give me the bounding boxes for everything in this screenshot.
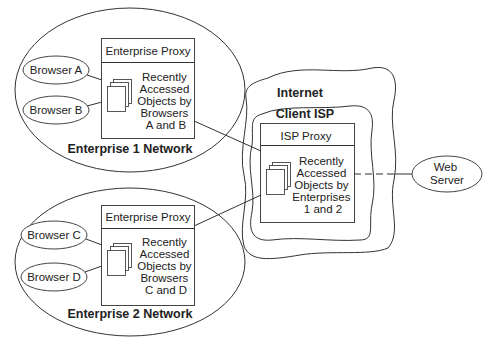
isp-proxy-title: ISP Proxy bbox=[281, 130, 332, 142]
link-browser-a-proxy bbox=[87, 75, 102, 80]
enterprise-1-proxy-title: Enterprise Proxy bbox=[105, 45, 190, 57]
link-enterprise-1-to-isp bbox=[194, 121, 261, 151]
enterprise-2-network: Enterprise 2 Network Browser C Browser D… bbox=[15, 188, 245, 336]
web-server-label: Web Server bbox=[430, 161, 464, 186]
browser-c-label: Browser C bbox=[27, 229, 81, 241]
cached-documents-icon bbox=[267, 163, 291, 195]
enterprise-2-cache-text: Recently Accessed Objects by Browsers C … bbox=[137, 236, 195, 296]
enterprise-1-cache-text: Recently Accessed Objects by Browsers A … bbox=[137, 71, 195, 131]
browser-a-label: Browser A bbox=[30, 64, 83, 76]
enterprise-2-label: Enterprise 2 Network bbox=[67, 307, 192, 321]
client-isp-label: Client ISP bbox=[276, 107, 334, 121]
internet-region: Internet Client ISP ISP Proxy Recently A… bbox=[242, 67, 395, 258]
enterprise-1-label: Enterprise 1 Network bbox=[67, 142, 192, 156]
link-browser-b-proxy bbox=[87, 102, 102, 106]
cached-documents-icon bbox=[108, 244, 132, 276]
link-browser-d-proxy bbox=[85, 266, 102, 272]
web-server-node: Web Server bbox=[412, 156, 482, 192]
enterprise-1-network: Enterprise 1 Network Browser A Browser B… bbox=[15, 8, 245, 172]
browser-b-label: Browser B bbox=[29, 104, 82, 116]
enterprise-2-proxy-title: Enterprise Proxy bbox=[105, 211, 190, 223]
browser-d-label: Browser D bbox=[27, 271, 81, 283]
link-browser-c-proxy bbox=[86, 239, 102, 245]
proxy-caching-diagram: Enterprise 1 Network Browser A Browser B… bbox=[0, 0, 493, 347]
cached-documents-icon bbox=[108, 80, 132, 112]
internet-label: Internet bbox=[277, 86, 324, 100]
